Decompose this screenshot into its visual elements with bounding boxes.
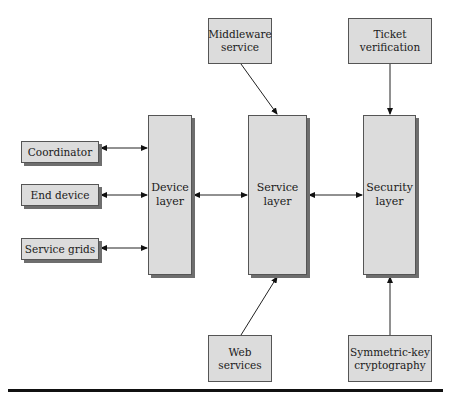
end-device-label: End device xyxy=(31,189,90,202)
service-layer-label-1: Service xyxy=(257,181,299,195)
security-layer-box: Security layer xyxy=(363,115,416,275)
service-layer-box: Service layer xyxy=(248,115,307,275)
service-grids-box: Service grids xyxy=(21,238,99,260)
ticket-label-1: Ticket xyxy=(360,28,420,41)
security-layer-label-1: Security xyxy=(366,181,413,195)
device-layer-box: Device layer xyxy=(148,115,192,275)
crypto-label-2: cryptography xyxy=(350,359,430,372)
arrow-web-service xyxy=(241,277,277,335)
web-services-label-2: services xyxy=(218,359,261,372)
ticket-verification-box: Ticket verification xyxy=(348,18,432,64)
service-grids-label: Service grids xyxy=(25,243,95,256)
device-layer-label-1: Device xyxy=(151,181,189,195)
security-layer-label-2: layer xyxy=(366,195,413,209)
crypto-label-1: Symmetric-key xyxy=(350,346,430,359)
ticket-label-2: verification xyxy=(360,41,420,54)
arrow-middleware-service xyxy=(241,64,277,114)
device-layer-label-2: layer xyxy=(151,195,189,209)
service-layer-label-2: layer xyxy=(257,195,299,209)
middleware-label-1: Middleware xyxy=(208,28,272,41)
web-services-box: Web services xyxy=(208,335,272,382)
coordinator-box: Coordinator xyxy=(21,141,99,163)
middleware-service-box: Middleware service xyxy=(208,18,272,64)
bottom-rule-divider xyxy=(8,389,443,392)
middleware-label-2: service xyxy=(208,41,272,54)
web-services-label-1: Web xyxy=(218,346,261,359)
end-device-box: End device xyxy=(21,184,99,206)
coordinator-label: Coordinator xyxy=(28,146,92,159)
symmetric-key-cryptography-box: Symmetric-key cryptography xyxy=(348,335,432,382)
